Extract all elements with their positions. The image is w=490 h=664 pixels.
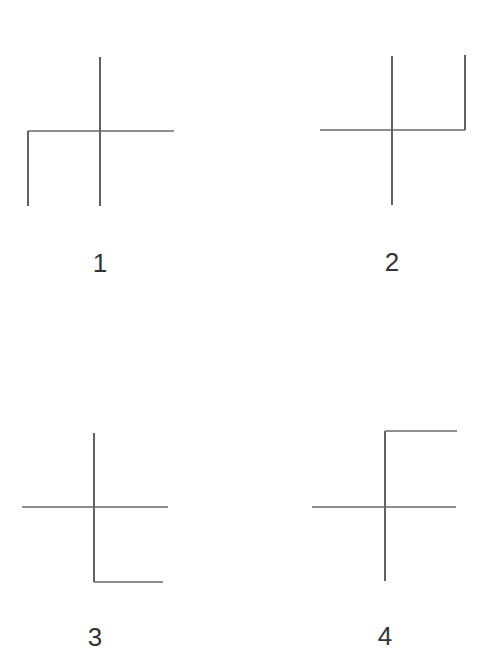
figure-label-1: 1 xyxy=(93,250,107,276)
figure-canvas xyxy=(0,0,490,664)
figure-label-2: 2 xyxy=(385,249,399,275)
figure-2 xyxy=(320,55,465,205)
figure-1 xyxy=(28,57,174,206)
figure-label-3: 3 xyxy=(88,624,102,650)
figure-label-4: 4 xyxy=(378,623,392,649)
figure-4 xyxy=(312,431,457,581)
figure-3 xyxy=(22,433,168,582)
